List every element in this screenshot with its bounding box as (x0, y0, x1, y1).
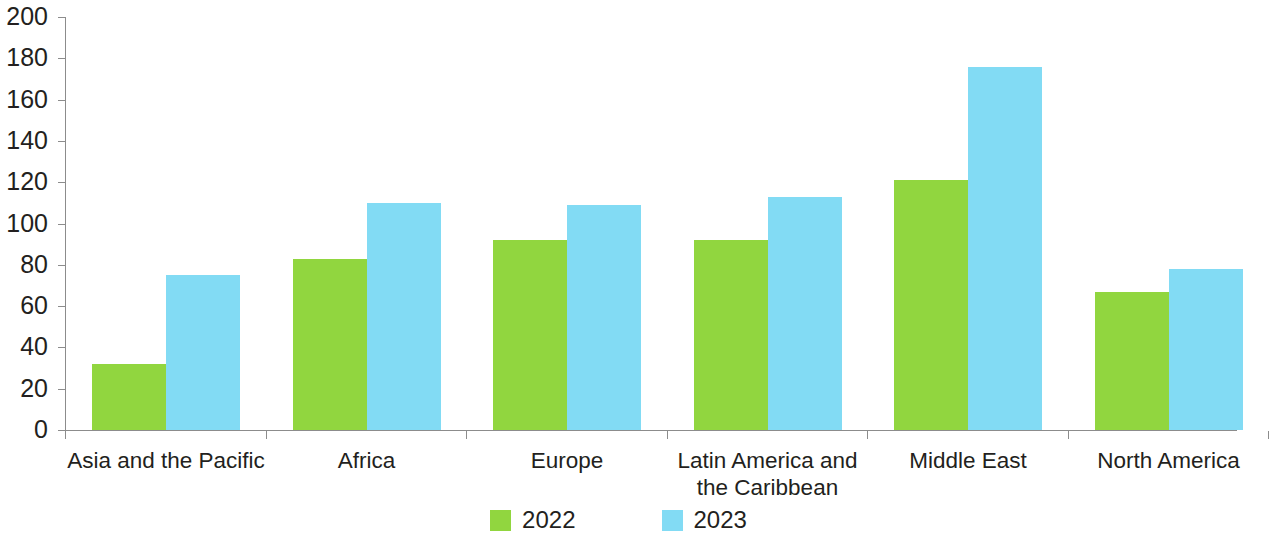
y-axis-tick-label: 100 (0, 211, 48, 236)
legend-item-2022[interactable]: 2022 (490, 508, 575, 532)
x-axis-category-label: Asia and the Pacific (56, 447, 276, 474)
bar-2022-asia-and-the-pacific (92, 364, 166, 430)
bar-2023-africa (367, 203, 441, 430)
y-axis-tick-label: 180 (0, 45, 48, 70)
x-axis-tick (1068, 431, 1069, 439)
bar-2022-africa (293, 259, 367, 430)
y-axis-tick (58, 265, 66, 266)
bar-2023-middle-east (968, 67, 1042, 430)
bar-2022-middle-east (894, 180, 968, 430)
x-axis-category-label: Latin America and the Caribbean (658, 447, 878, 501)
y-axis-tick-label: 60 (0, 293, 48, 318)
legend-item-2023[interactable]: 2023 (662, 508, 747, 532)
y-axis-tick (58, 100, 66, 101)
y-axis-tick (58, 224, 66, 225)
bar-2023-north-america (1169, 269, 1243, 430)
y-axis-tick (58, 58, 66, 59)
y-axis-tick (58, 17, 66, 18)
bar-2022-latin-america-and-the-caribbean (694, 240, 768, 430)
y-axis-tick-label: 200 (0, 4, 48, 29)
x-axis-tick (466, 431, 467, 439)
y-axis-tick-label: 20 (0, 376, 48, 401)
x-axis-tick (266, 431, 267, 439)
y-axis-tick (58, 141, 66, 142)
bar-2022-europe (493, 240, 567, 430)
bars-layer (66, 17, 1237, 430)
y-axis-tick (58, 182, 66, 183)
y-axis-tick-label: 120 (0, 169, 48, 194)
y-axis-tick (58, 347, 66, 348)
x-axis-tick (867, 431, 868, 439)
bar-2022-north-america (1095, 292, 1169, 430)
y-axis-tick-label: 140 (0, 128, 48, 153)
x-axis-category-label: Europe (457, 447, 677, 474)
x-axis-tick (1268, 431, 1269, 439)
x-axis-line (65, 430, 1237, 431)
x-axis-tick (65, 431, 66, 439)
x-axis-tick (667, 431, 668, 439)
y-axis-tick-label: 40 (0, 334, 48, 359)
legend-swatch-icon (490, 510, 511, 531)
y-axis-tick (58, 389, 66, 390)
x-axis-category-label: Africa (257, 447, 477, 474)
legend-swatch-icon (662, 510, 683, 531)
legend-label: 2023 (694, 508, 747, 532)
bar-2023-latin-america-and-the-caribbean (768, 197, 842, 430)
bar-2023-europe (567, 205, 641, 430)
x-axis-category-label: North America (1059, 447, 1273, 474)
y-axis-tick-label: 80 (0, 252, 48, 277)
y-axis-tick-label: 0 (0, 417, 48, 442)
y-axis-tick (58, 306, 66, 307)
chart-legend: 20222023 (0, 508, 1237, 532)
y-axis-tick-label: 160 (0, 87, 48, 112)
x-axis-category-label: Middle East (858, 447, 1078, 474)
legend-label: 2022 (522, 508, 575, 532)
bar-2023-asia-and-the-pacific (166, 275, 240, 430)
